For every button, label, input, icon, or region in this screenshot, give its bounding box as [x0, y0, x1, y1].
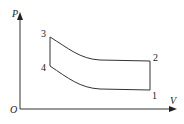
- point-3-label: 3: [41, 29, 46, 39]
- x-axis-arrow-icon: [169, 106, 177, 112]
- point-4-label: 4: [41, 63, 46, 73]
- pv-diagram: P V O 3 4 2 1: [0, 0, 184, 124]
- x-axis-label: V: [170, 96, 176, 106]
- y-axis-label: P: [12, 9, 18, 19]
- process-4-1: [50, 66, 150, 90]
- origin-label: O: [10, 105, 17, 115]
- point-2-label: 2: [153, 53, 158, 63]
- point-1-label: 1: [152, 91, 157, 101]
- process-2-3: [50, 37, 150, 61]
